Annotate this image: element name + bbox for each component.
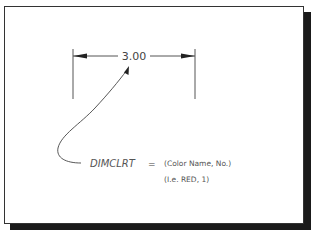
variable-name-text: DIMCLRT — [90, 158, 136, 169]
dimension-value-text: 3.00 — [122, 50, 147, 63]
value-description-line2: (I.e. RED, 1) — [164, 175, 209, 184]
dimension-line-left — [73, 54, 118, 59]
right-arrowhead-icon — [181, 54, 195, 59]
equals-sign-text: = — [148, 159, 156, 169]
dimension-line-right — [150, 54, 195, 59]
value-description-line1: (Color Name, No.) — [164, 159, 231, 168]
cad-drawing: 3.00 DIMCLRT = (Color Name, No.) (I.e. R… — [0, 0, 315, 233]
leader-curve — [58, 70, 127, 163]
left-arrowhead-icon — [73, 54, 87, 59]
